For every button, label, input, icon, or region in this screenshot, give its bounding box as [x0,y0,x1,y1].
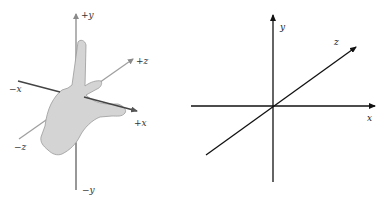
coordinate-systems-figure: +y −y −x +x +z −z y z x [0,0,382,201]
label-x: x [367,113,372,123]
left-hand-diagram: +y −y −x +x +z −z [9,10,149,195]
label-pos-z: +z [136,56,149,66]
left-hand-shape [41,40,126,154]
label-y: y [279,22,286,32]
label-neg-x: −x [9,84,22,94]
figure: +y −y −x +x +z −z y z x [0,0,382,201]
right-axes-diagram: y z x [191,15,375,182]
label-neg-z: −z [14,142,27,152]
label-pos-y: +y [81,10,95,20]
label-neg-y: −y [82,185,96,195]
z-axis [206,47,356,155]
x-axis-line-back [18,81,60,92]
label-z: z [333,37,339,47]
label-pos-x: +x [134,118,147,128]
